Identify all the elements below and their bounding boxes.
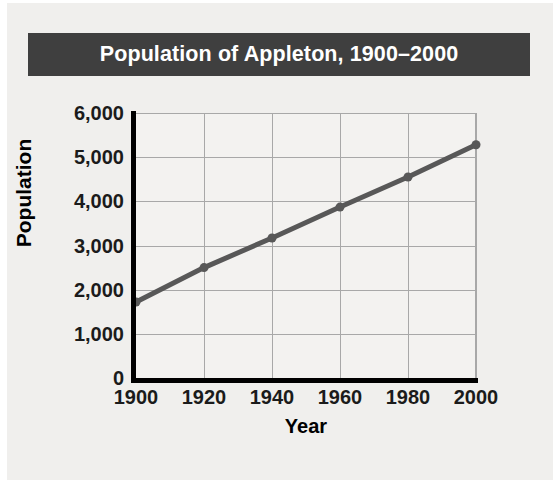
data-point-marker [472, 140, 481, 149]
y-axis-line [131, 111, 136, 383]
x-axis-tick-labels: 190019201940196019802000 [136, 387, 476, 413]
data-point-marker [336, 203, 345, 212]
y-axis-label: Population [12, 113, 36, 273]
data-point-marker [268, 233, 277, 242]
data-point-marker [200, 263, 209, 272]
y-tick-label: 5,000 [74, 147, 124, 167]
x-axis-line [131, 378, 478, 383]
y-tick-label: 2,000 [74, 280, 124, 300]
series-line [136, 145, 476, 302]
x-tick-label: 2000 [436, 387, 516, 407]
y-tick-label: 0 [113, 368, 124, 388]
y-tick-label: 3,000 [74, 236, 124, 256]
series-line-chart [136, 113, 476, 378]
gridline-vertical [476, 113, 477, 378]
chart-figure: Population of Appleton, 1900–2000 01,000… [0, 0, 559, 485]
y-tick-label: 6,000 [74, 103, 124, 123]
chart-title-band: Population of Appleton, 1900–2000 [28, 33, 530, 76]
y-tick-label: 4,000 [74, 191, 124, 211]
x-axis-label: Year [136, 415, 476, 438]
data-point-marker [404, 173, 413, 182]
chart-title: Population of Appleton, 1900–2000 [100, 42, 459, 67]
plot-area [136, 113, 476, 378]
y-tick-label: 1,000 [74, 324, 124, 344]
